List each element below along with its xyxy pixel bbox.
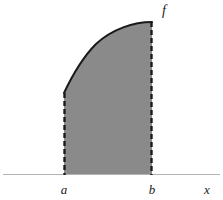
x-label-b: b	[145, 183, 159, 196]
shaded-region	[64, 22, 152, 174]
x-label-a: a	[57, 183, 71, 196]
x-axis-label: x	[200, 183, 214, 196]
curve-label-f: f	[157, 4, 171, 18]
area-under-curve-diagram	[0, 0, 223, 200]
